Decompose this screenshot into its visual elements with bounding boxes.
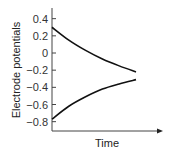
y-tick-label: 0.4 — [33, 13, 48, 25]
y-tick-label: −0.2 — [26, 64, 48, 76]
y-axis-label: Electrode potentials — [10, 21, 22, 118]
y-tick-label: −0.8 — [26, 116, 48, 128]
upper-electrode-curve — [52, 27, 136, 72]
y-tick-label: 0.2 — [33, 30, 48, 42]
lower-electrode-curve — [52, 80, 136, 119]
y-tick-label: −0.6 — [26, 99, 48, 111]
x-axis-arrow-icon — [157, 129, 163, 134]
y-tick-label: −0.4 — [26, 81, 48, 93]
y-tick-label: 0 — [42, 47, 48, 59]
chart: 0.40.20−0.2−0.4−0.6−0.8 Time Electrode p… — [0, 0, 171, 153]
x-axis-label: Time — [95, 137, 119, 149]
